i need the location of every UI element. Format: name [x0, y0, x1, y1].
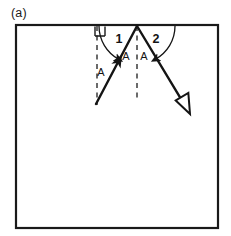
angle-label-1: 1	[116, 32, 123, 46]
label-a-inner-left: A	[122, 50, 130, 62]
reflection-diagram: 1 2 A A A	[0, 0, 231, 236]
diagram-border	[16, 25, 218, 228]
figure-panel: (a) 1 2 A	[0, 0, 231, 236]
label-a-left: A	[97, 66, 105, 78]
label-a-inner-right: A	[140, 50, 148, 62]
angle-label-2: 2	[153, 32, 160, 46]
